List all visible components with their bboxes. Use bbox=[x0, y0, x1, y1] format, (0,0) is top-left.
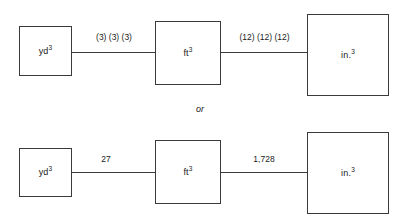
unit-exponent-text: 3 bbox=[49, 165, 53, 172]
unit-node-label: in.3 bbox=[341, 51, 355, 60]
unit-exponent-text: 3 bbox=[189, 165, 193, 172]
edge-label-yard-to-foot-bottom: 27 bbox=[84, 155, 128, 164]
unit-node-label: in.3 bbox=[341, 169, 355, 178]
unit-base-text: yd bbox=[39, 46, 49, 56]
edge-label-foot-to-inch-top: (12) (12) (12) bbox=[223, 33, 306, 42]
connector-yard-to-foot-bottom bbox=[72, 172, 155, 173]
unit-base-text: in. bbox=[341, 50, 351, 60]
connector-foot-to-inch-top bbox=[221, 52, 307, 53]
edge-label-yard-to-foot-top: (3) (3) (3) bbox=[76, 33, 152, 42]
unit-node-cubic-yard-top: yd3 bbox=[19, 26, 72, 76]
unit-node-label: ft3 bbox=[183, 168, 192, 177]
unit-base-text: yd bbox=[39, 167, 49, 177]
edge-label-foot-to-inch-bottom: 1,728 bbox=[233, 155, 295, 164]
or-divider-label: or bbox=[170, 104, 230, 114]
connector-yard-to-foot-top bbox=[72, 52, 155, 53]
unit-node-cubic-foot-top: ft3 bbox=[155, 21, 221, 85]
unit-node-label: ft3 bbox=[183, 49, 192, 58]
unit-node-cubic-yard-bottom: yd3 bbox=[19, 148, 72, 197]
unit-node-cubic-inch-bottom: in.3 bbox=[307, 132, 389, 214]
unit-exponent-text: 3 bbox=[189, 46, 193, 53]
unit-node-cubic-inch-top: in.3 bbox=[307, 14, 389, 96]
unit-exponent-text: 3 bbox=[49, 44, 53, 51]
unit-node-label: yd3 bbox=[39, 168, 53, 177]
unit-exponent-text: 3 bbox=[351, 166, 355, 173]
unit-node-cubic-foot-bottom: ft3 bbox=[155, 140, 221, 204]
unit-exponent-text: 3 bbox=[351, 48, 355, 55]
connector-foot-to-inch-bottom bbox=[221, 172, 307, 173]
conversion-diagram: yd3 (3) (3) (3) ft3 (12) (12) (12) in.3 … bbox=[0, 0, 399, 218]
unit-base-text: in. bbox=[341, 168, 351, 178]
unit-node-label: yd3 bbox=[39, 47, 53, 56]
